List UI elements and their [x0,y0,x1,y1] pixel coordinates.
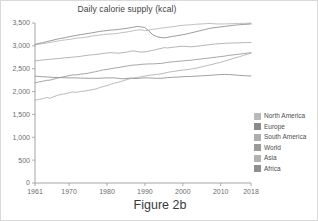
legend-item[interactable]: Europe [254,122,318,132]
legend-item[interactable]: South America [254,132,318,142]
legend-label: North America [264,112,305,120]
y-tick-label: 3,000 [12,42,30,49]
y-tick-label: 1,500 [12,111,30,118]
x-tick-label: 1980 [99,188,115,195]
x-tick-label: 1961 [27,188,43,195]
legend-item[interactable]: World [254,143,318,153]
legend-label: South America [264,133,306,141]
legend-label: Europe [264,123,285,131]
y-tick-label: 2,500 [12,65,30,72]
series-line-asia [35,53,251,100]
legend-swatch [254,155,261,162]
chart-legend: North AmericaEuropeSouth AmericaWorldAsi… [254,111,318,174]
y-tick-label: 0 [26,179,30,186]
x-tick-label: 1990 [137,188,153,195]
x-tick-label: 2018 [243,188,259,195]
legend-swatch [254,123,261,130]
series-line-north-america [35,23,251,45]
figure-caption: Figure 2b [1,198,318,212]
y-tick-label: 3,500 [12,19,30,26]
y-tick-label: 1,000 [12,134,30,141]
x-tick-label: 1970 [61,188,77,195]
legend-label: Asia [264,154,277,162]
x-tick-label: 2010 [213,188,229,195]
y-tick-label: 500 [18,157,30,164]
legend-label: World [264,144,281,152]
series-line-south-america [35,42,251,61]
figure-container: Daily calorie supply (kcal) 05001,0001,5… [0,0,318,221]
legend-swatch [254,144,261,151]
legend-item[interactable]: Africa [254,164,318,174]
series-line-europe [35,24,251,45]
legend-swatch [254,134,261,141]
legend-item[interactable]: Asia [254,153,318,163]
legend-label: Africa [264,165,281,173]
y-tick-label: 2,000 [12,88,30,95]
legend-swatch [254,113,261,120]
legend-item[interactable]: North America [254,111,318,121]
legend-swatch [254,165,261,172]
x-tick-label: 2000 [175,188,191,195]
